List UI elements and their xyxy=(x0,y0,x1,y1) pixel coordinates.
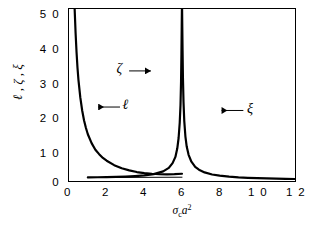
annotation-zeta-label: ζ xyxy=(117,61,123,77)
x-tick-label-2: 2 xyxy=(86,186,126,198)
x-axis-label: σca2 xyxy=(68,203,296,219)
annotation-ell-label: ℓ xyxy=(123,97,129,113)
x-tick-label-0: 0 xyxy=(48,186,88,198)
x-tick-label-8: 8 xyxy=(200,186,240,198)
curve-ℓ xyxy=(75,9,182,174)
x-tick-label-12: 1 2 xyxy=(276,186,312,198)
curve-ξ xyxy=(182,9,295,179)
plot-area xyxy=(68,8,296,182)
annotation-xi-label: ξ xyxy=(247,101,253,117)
x-tick-label-6: 6 xyxy=(162,186,202,198)
y-tick-label-20: 2 0 xyxy=(20,112,60,124)
chart-figure: ℓ , ζ , ξ 5 0 4 0 3 0 2 0 1 0 0 0 2 4 6 … xyxy=(0,0,312,228)
x-axis-label-exponent: 2 xyxy=(187,203,191,212)
curves-layer xyxy=(69,9,295,181)
y-tick-label-50: 5 0 xyxy=(20,8,60,20)
y-tick-label-40: 4 0 xyxy=(20,43,60,55)
x-tick-label-4: 4 xyxy=(124,186,164,198)
x-tick-label-10: 1 0 xyxy=(238,186,278,198)
y-tick-label-30: 3 0 xyxy=(20,78,60,90)
curve-ζ xyxy=(88,9,182,177)
y-tick-label-10: 1 0 xyxy=(20,147,60,159)
